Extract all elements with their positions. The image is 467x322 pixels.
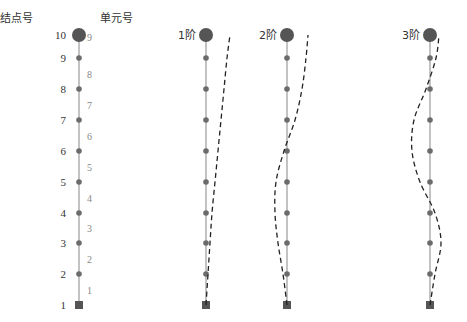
- mode-1-node-dot: [203, 55, 209, 61]
- mode-3-node-dot: [427, 148, 433, 154]
- mode-2-node-dot: [284, 179, 290, 185]
- element-label: 4: [87, 193, 92, 204]
- node-label: 7: [61, 114, 67, 126]
- node-label: 1: [61, 299, 67, 311]
- mode-3-node-dot: [427, 210, 433, 216]
- mode-2-label: 2阶: [259, 28, 277, 42]
- mode-2-node-dot: [284, 240, 290, 246]
- mode-2-node-dot: [284, 117, 290, 123]
- mode-3-label: 3阶: [402, 28, 420, 42]
- model-node-dot: [76, 271, 82, 277]
- model-fixed-support-icon: [75, 301, 83, 309]
- mode-3-node-dot: [427, 240, 433, 246]
- mode-1-node-dot: [203, 86, 209, 92]
- element-label: 5: [87, 162, 92, 173]
- mode-1-shape-curve: [206, 35, 230, 305]
- node-label: 9: [61, 52, 67, 64]
- model-node-dot: [76, 210, 82, 216]
- mode-1-node-dot: [203, 179, 209, 185]
- model-node-dot: [76, 148, 82, 154]
- mode-2-node-dot: [284, 210, 290, 216]
- mode-3-node-dot: [427, 86, 433, 92]
- mode-1-node-dot: [203, 148, 209, 154]
- model-node-dot: [76, 117, 82, 123]
- mode-3-node-dot: [427, 179, 433, 185]
- model-node-dot: [76, 179, 82, 185]
- mode-2-node-dot: [284, 271, 290, 277]
- model-node-dot: [76, 240, 82, 246]
- mode-3-top-mass-icon: [423, 28, 437, 42]
- mode-3-shape-curve: [412, 35, 441, 305]
- node-label: 8: [61, 83, 67, 95]
- element-label: 7: [87, 100, 92, 111]
- element-label: 9: [87, 32, 92, 43]
- mode-1-node-dot: [203, 210, 209, 216]
- element-label: 6: [87, 131, 92, 142]
- mode-3-node-dot: [427, 117, 433, 123]
- model-node-dot: [76, 55, 82, 61]
- mode-2-node-dot: [284, 55, 290, 61]
- mode-1-node-dot: [203, 240, 209, 246]
- node-label: 2: [61, 268, 67, 280]
- mode-2-shape-curve: [275, 35, 308, 305]
- element-label: 2: [87, 254, 92, 265]
- model-top-mass-icon: [72, 28, 86, 42]
- mode-2-top-mass-icon: [280, 28, 294, 42]
- element-label: 1: [87, 285, 92, 296]
- mode-1-top-mass-icon: [199, 28, 213, 42]
- node-label: 6: [61, 145, 67, 157]
- model-node-dot: [76, 86, 82, 92]
- node-label: 10: [55, 29, 67, 41]
- node-label: 3: [61, 237, 67, 249]
- mode-3-node-dot: [427, 271, 433, 277]
- element-label: 3: [87, 223, 92, 234]
- node-label: 5: [61, 176, 67, 188]
- mode-2-node-dot: [284, 148, 290, 154]
- mode-1-label: 1阶: [178, 28, 196, 42]
- mode-1-node-dot: [203, 117, 209, 123]
- mode-shape-diagram: 123456789101234567891阶2阶3阶: [0, 0, 467, 322]
- mode-3-node-dot: [427, 55, 433, 61]
- node-label: 4: [61, 207, 67, 219]
- mode-2-node-dot: [284, 86, 290, 92]
- element-label: 8: [87, 69, 92, 80]
